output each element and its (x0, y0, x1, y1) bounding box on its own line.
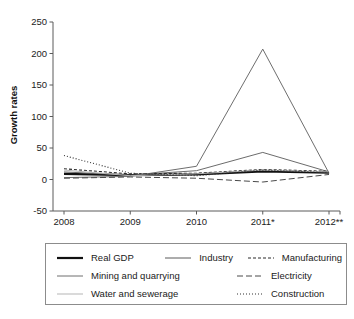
legend-swatch-water-and-sewerage (56, 289, 84, 299)
y-tick-label: 150 (31, 79, 47, 90)
y-axis: 250200150100500-50 (31, 16, 53, 216)
legend-swatch-mining-and-quarrying (56, 271, 84, 281)
y-tick-label: 100 (31, 111, 47, 122)
y-tick-label: -50 (33, 205, 47, 216)
x-tick-label: 2012** (315, 216, 344, 227)
legend-item-mining-and-quarrying[interactable]: Mining and quarrying (56, 271, 236, 281)
legend-label-electricity: Electricity (271, 271, 312, 281)
legend-swatch-construction (236, 289, 264, 299)
legend-row: Real GDP Industry Manufacturing (50, 249, 342, 267)
x-tick-label: 2008 (53, 216, 74, 227)
legend-label-real-gdp: Real GDP (91, 253, 134, 263)
x-axis: 2008200920102011*2012** (53, 211, 344, 227)
legend-item-industry[interactable]: Industry (164, 253, 247, 263)
legend-row: Mining and quarrying Electricity (50, 267, 342, 285)
legend-item-manufacturing[interactable]: Manufacturing (247, 253, 342, 263)
legend-item-electricity[interactable]: Electricity (236, 271, 312, 281)
chart-svg: 250200150100500-50 2008200920102011*2012… (0, 0, 354, 236)
legend-item-construction[interactable]: Construction (236, 289, 324, 299)
y-axis-title: Growth rates (8, 86, 19, 145)
legend-item-real-gdp[interactable]: Real GDP (56, 253, 164, 263)
y-tick-label: 0 (42, 174, 47, 185)
legend-item-water-and-sewerage[interactable]: Water and sewerage (56, 289, 236, 299)
legend-label-construction: Construction (271, 289, 324, 299)
legend-label-mining-and-quarrying: Mining and quarrying (91, 271, 180, 281)
chart-legend: Real GDP Industry Manufacturing Mining a… (45, 243, 347, 305)
x-tick-label: 2010 (186, 216, 207, 227)
legend-swatch-electricity (236, 271, 264, 281)
growth-rates-line-chart-figure: 250200150100500-50 2008200920102011*2012… (0, 0, 354, 319)
legend-label-industry: Industry (199, 253, 233, 263)
plot-area: 250200150100500-50 2008200920102011*2012… (0, 0, 354, 236)
legend-swatch-manufacturing (247, 253, 275, 263)
x-tick-label: 2009 (120, 216, 141, 227)
series-line-mining-and-quarrying (64, 49, 329, 178)
legend-swatch-industry (164, 253, 192, 263)
y-tick-label: 200 (31, 48, 47, 59)
legend-label-water-and-sewerage: Water and sewerage (91, 289, 178, 299)
y-tick-label: 250 (31, 16, 47, 27)
x-tick-label: 2011* (251, 216, 275, 227)
legend-row: Water and sewerage Construction (50, 285, 342, 303)
legend-label-manufacturing: Manufacturing (282, 253, 342, 263)
data-series-group (64, 49, 329, 182)
legend-swatch-real-gdp (56, 253, 84, 263)
y-tick-label: 50 (36, 142, 47, 153)
